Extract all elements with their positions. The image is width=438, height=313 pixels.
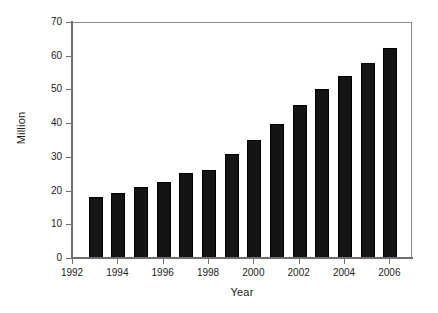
x-tick-label: 1994	[95, 267, 139, 278]
y-tick-mark	[66, 123, 72, 124]
y-tick-mark	[66, 89, 72, 90]
bar	[293, 105, 307, 259]
x-tick-label: 1998	[186, 267, 230, 278]
y-tick-label: 20	[34, 186, 62, 196]
x-tick-label: 2002	[277, 267, 321, 278]
bar	[270, 124, 284, 259]
bar	[134, 187, 148, 259]
bar	[202, 170, 216, 259]
y-tick-mark	[66, 56, 72, 57]
y-tick-label: 70	[34, 17, 62, 27]
x-tick-mark	[299, 258, 300, 264]
x-tick-mark	[72, 258, 73, 264]
x-tick-label: 2004	[322, 267, 366, 278]
y-tick-label: 0	[34, 253, 62, 263]
x-tick-label: 1996	[141, 267, 185, 278]
bar	[338, 76, 352, 259]
y-tick-mark	[66, 22, 72, 23]
x-tick-mark	[389, 258, 390, 264]
x-tick-label: 2006	[367, 267, 411, 278]
y-tick-mark	[66, 191, 72, 192]
x-tick-mark	[163, 258, 164, 264]
y-tick-label: 60	[34, 51, 62, 61]
bar	[225, 154, 239, 259]
bar	[247, 140, 261, 259]
y-tick-mark	[66, 157, 72, 158]
x-tick-mark	[253, 258, 254, 264]
y-tick-label: 50	[34, 84, 62, 94]
bar	[111, 193, 125, 259]
x-tick-mark	[344, 258, 345, 264]
plot-area	[72, 22, 412, 258]
x-tick-mark	[117, 258, 118, 264]
y-tick-label: 10	[34, 219, 62, 229]
y-tick-label: 30	[34, 152, 62, 162]
x-tick-label: 2000	[231, 267, 275, 278]
bar-chart-figure: Million 010203040506070 1992199419961998…	[0, 0, 438, 313]
bar	[157, 182, 171, 259]
x-tick-label: 1992	[50, 267, 94, 278]
bar	[315, 89, 329, 259]
x-tick-mark	[208, 258, 209, 264]
y-axis-title: Million	[15, 98, 27, 158]
bar	[179, 173, 193, 259]
bar	[383, 48, 397, 259]
x-axis-line	[71, 257, 413, 259]
x-axis-title: Year	[72, 286, 412, 298]
y-tick-label: 40	[34, 118, 62, 128]
y-tick-mark	[66, 224, 72, 225]
bar	[361, 63, 375, 259]
bar	[89, 197, 103, 259]
